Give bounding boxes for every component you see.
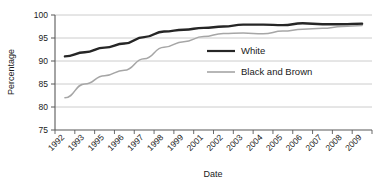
x-axis-ticks [55, 130, 372, 134]
line-chart: 100 95 90 85 80 75 Percentage 1992199319… [0, 0, 381, 191]
x-tick-label: 1999 [165, 132, 186, 153]
y-tick-label: 75 [39, 125, 49, 135]
data-series-layer [65, 23, 362, 98]
chart-container: 100 95 90 85 80 75 Percentage 1992199319… [0, 0, 381, 191]
x-tick-label: 2004 [244, 132, 265, 153]
x-tick-label: 2006 [284, 132, 305, 153]
y-tick-label: 80 [39, 102, 49, 112]
x-axis-title: Date [203, 169, 222, 179]
x-axis-tick-labels: 1992199319951996199719981999200120022003… [46, 132, 364, 153]
y-tick-label: 85 [39, 79, 49, 89]
y-axis-title: Percentage [6, 49, 16, 95]
y-axis-ticks [51, 15, 55, 130]
x-tick-label: 2007 [303, 132, 324, 153]
legend-label-white: White [241, 45, 265, 56]
y-tick-label: 100 [34, 10, 48, 20]
legend-label-black-and-brown: Black and Brown [241, 66, 312, 77]
y-tick-label: 95 [39, 33, 49, 43]
x-tick-label: 1997 [125, 132, 146, 153]
x-tick-label: 2002 [204, 132, 225, 153]
x-tick-label: 2009 [343, 132, 364, 153]
x-tick-label: 1993 [66, 132, 87, 153]
x-tick-label: 1998 [145, 132, 166, 153]
x-tick-label: 2005 [264, 132, 285, 153]
x-tick-label: 2008 [323, 132, 344, 153]
x-tick-label: 2003 [224, 132, 245, 153]
series-line-black-and-brown [65, 26, 362, 98]
y-axis-tick-labels: 100 95 90 85 80 75 [34, 10, 48, 135]
x-tick-label: 2001 [185, 132, 206, 153]
x-tick-label: 1995 [85, 132, 106, 153]
x-tick-label: 1996 [105, 132, 126, 153]
y-tick-label: 90 [39, 56, 49, 66]
x-tick-label: 1992 [46, 132, 67, 153]
